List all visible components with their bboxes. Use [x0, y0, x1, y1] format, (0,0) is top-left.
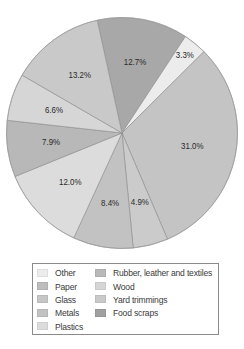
- legend-item-rubber-leather-textiles: Rubber, leather and textiles: [95, 266, 223, 279]
- pie-slices: [6, 17, 237, 248]
- legend-swatch-paper: [37, 282, 48, 290]
- slice-value-label: 13.2%: [69, 69, 92, 80]
- legend-item-plastics: Plastics: [37, 320, 86, 333]
- legend-label: Food scraps: [113, 307, 158, 318]
- legend-swatch-plastics: [37, 322, 48, 330]
- legend-item-wood: Wood: [95, 279, 223, 292]
- legend-label: Plastics: [55, 321, 83, 332]
- slice-value-label: 12.7%: [124, 56, 147, 67]
- legend-column-right: Rubber, leather and textiles Wood Yard t…: [95, 266, 223, 320]
- legend-label: Paper: [55, 281, 77, 292]
- legend-column-left: Other Paper Glass Metals Plastics: [37, 266, 86, 333]
- legend-label: Other: [55, 267, 75, 278]
- legend-swatch-food-scraps: [95, 309, 106, 317]
- legend-item-yard-trimmings: Yard trimmings: [95, 293, 223, 306]
- slice-value-label: 8.4%: [101, 197, 119, 208]
- legend-item-metals: Metals: [37, 306, 86, 319]
- legend-swatch-rubber: [95, 269, 106, 277]
- legend-label: Wood: [113, 281, 134, 292]
- legend-label: Rubber, leather and textiles: [113, 267, 212, 278]
- legend-item-paper: Paper: [37, 279, 86, 292]
- legend-swatch-yard: [95, 295, 106, 303]
- slice-value-label: 31.0%: [181, 141, 204, 152]
- slice-value-label: 6.6%: [45, 105, 63, 116]
- slice-value-label: 7.9%: [42, 137, 60, 148]
- legend-swatch-glass: [37, 295, 48, 303]
- legend-item-glass: Glass: [37, 293, 86, 306]
- legend-swatch-other: [37, 269, 48, 277]
- legend-swatch-metals: [37, 309, 48, 317]
- chart-legend: Other Paper Glass Metals Plastics Rubber…: [32, 263, 219, 335]
- slice-value-label: 4.9%: [131, 196, 149, 207]
- pie-chart: 12.7%3.3%31.0%4.9%8.4%12.0%7.9%6.6%13.2%: [0, 0, 244, 260]
- legend-item-other: Other: [37, 266, 86, 279]
- legend-swatch-wood: [95, 282, 106, 290]
- legend-item-food-scraps: Food scraps: [95, 306, 223, 319]
- slice-value-label: 12.0%: [59, 176, 82, 187]
- legend-label: Yard trimmings: [113, 294, 167, 305]
- legend-label: Glass: [55, 294, 76, 305]
- slice-value-label: 3.3%: [176, 50, 194, 61]
- legend-label: Metals: [55, 307, 79, 318]
